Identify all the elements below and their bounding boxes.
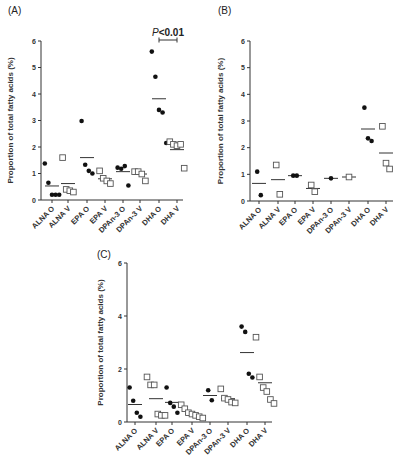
y-tick-label: 4 <box>241 91 245 98</box>
data-point <box>206 388 211 393</box>
data-point <box>312 189 318 195</box>
data-point <box>210 398 215 403</box>
data-point <box>164 385 169 390</box>
data-point <box>46 180 51 185</box>
data-point <box>83 162 88 167</box>
data-point <box>247 371 252 376</box>
panel-label: (B) <box>218 5 231 16</box>
panel-label: (A) <box>8 5 21 16</box>
x-category-label: DHA V <box>159 204 182 227</box>
y-tick-label: 6 <box>32 38 36 45</box>
data-point <box>277 192 283 198</box>
data-point <box>346 174 352 180</box>
data-point <box>127 385 132 390</box>
y-tick-label: 4 <box>118 313 122 320</box>
y-tick-label: 3 <box>32 117 36 124</box>
y-tick-label: 4 <box>32 91 36 98</box>
data-point <box>264 389 270 395</box>
panel-a: (A)Proportion of total fatty acids (%)01… <box>6 5 187 235</box>
x-category-label: DHA O <box>228 426 251 449</box>
y-tick-label: 6 <box>118 260 122 267</box>
data-point <box>273 162 279 168</box>
data-point <box>243 330 248 335</box>
data-point <box>131 399 136 404</box>
data-point <box>257 374 263 380</box>
data-point <box>138 414 143 419</box>
data-point <box>218 386 224 392</box>
y-tick-label: 1 <box>241 171 245 178</box>
y-tick-label: 2 <box>118 366 122 373</box>
x-category-label: EPA O <box>69 204 91 226</box>
y-tick-label: 6 <box>241 38 245 45</box>
y-axis-title: Proportion of total fatty acids (%) <box>96 279 105 406</box>
data-point <box>329 176 334 181</box>
data-point <box>160 110 165 115</box>
data-point <box>255 169 260 174</box>
data-point <box>175 410 180 415</box>
data-point <box>97 168 103 174</box>
data-point <box>151 382 157 388</box>
data-point <box>271 401 277 407</box>
data-point <box>295 173 300 178</box>
y-tick-label: 0 <box>32 197 36 204</box>
data-point <box>181 165 187 171</box>
data-point <box>60 155 66 161</box>
data-point <box>123 164 128 169</box>
data-point <box>383 160 389 166</box>
y-tick-label: 2 <box>32 144 36 151</box>
panel-label: (C) <box>97 249 111 260</box>
y-axis-title: Proportion of total fatty acids (%) <box>6 57 15 184</box>
data-point <box>135 410 140 415</box>
data-point <box>71 189 77 195</box>
y-tick-label: 5 <box>241 64 245 71</box>
y-tick-label: 0 <box>118 419 122 426</box>
data-point <box>108 181 114 187</box>
data-point <box>362 105 367 110</box>
data-point <box>143 178 149 184</box>
y-tick-label: 3 <box>241 118 245 125</box>
data-point <box>178 142 184 148</box>
data-point <box>250 375 255 380</box>
data-point <box>308 182 314 188</box>
data-point <box>79 119 84 124</box>
data-point <box>168 401 173 406</box>
y-axis-title: Proportion of total fatty acids (%) <box>216 58 225 185</box>
data-point <box>253 334 259 340</box>
data-point <box>162 413 168 419</box>
data-point <box>232 400 238 406</box>
x-category-label: DHA V <box>247 426 270 449</box>
x-category-label: DHA O <box>140 204 163 227</box>
y-tick-label: 0 <box>241 198 245 205</box>
data-point <box>144 374 150 380</box>
data-point <box>139 171 145 177</box>
data-point <box>126 183 131 188</box>
x-category-label: EPA O <box>277 205 299 227</box>
y-tick-label: 5 <box>32 64 36 71</box>
x-category-label: DHA V <box>368 205 391 228</box>
data-point <box>43 161 48 166</box>
data-point <box>369 139 374 144</box>
significance-label: P<0.01 <box>152 27 184 38</box>
data-point <box>200 415 206 421</box>
data-point <box>90 171 95 176</box>
y-tick-label: 2 <box>241 144 245 151</box>
x-category-label: ALNA O <box>113 426 140 453</box>
data-point <box>153 74 158 79</box>
panel-c: (C)Proportion of total fatty acids (%)02… <box>96 249 277 457</box>
data-point <box>387 166 393 172</box>
panel-b: (B)Proportion of total fatty acids (%)01… <box>216 5 393 236</box>
y-tick-label: 1 <box>32 170 36 177</box>
data-point <box>259 193 264 198</box>
x-category-label: DHA O <box>349 205 372 228</box>
x-category-label: EPA O <box>154 426 176 448</box>
data-point <box>380 124 386 130</box>
data-point <box>172 404 177 409</box>
data-point <box>57 192 62 197</box>
data-point <box>239 324 244 329</box>
figure-canvas: (A)Proportion of total fatty acids (%)01… <box>0 0 406 471</box>
data-point <box>150 49 155 54</box>
